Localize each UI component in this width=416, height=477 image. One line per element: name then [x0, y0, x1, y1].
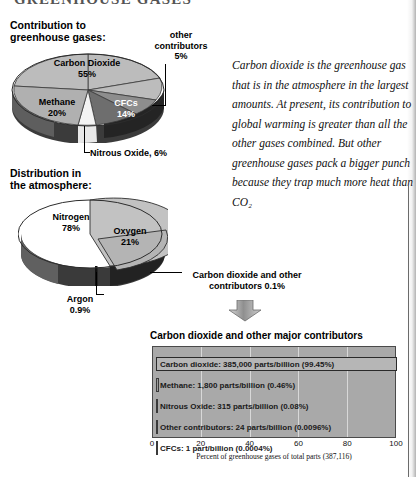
pie1-label-methane: Methane20% [26, 97, 88, 118]
leader-line-carbon-other [150, 272, 182, 273]
x-tick-20: 20 [196, 439, 205, 448]
x-tick-0: 0 [150, 439, 154, 448]
leader-line-argon-foot [96, 294, 104, 295]
bar-methane[interactable]: Methane: 1,800 parts/billion (0.46%) [156, 378, 159, 392]
pie2-callout-carbon-other: Carbon dioxide and othercontributors 0.1… [182, 270, 312, 291]
bar-chart-x-axis: 0 20 40 60 80 100 [152, 438, 396, 450]
leader-line-n2o [84, 126, 85, 152]
bar-nitrous-oxide[interactable]: Nitrous Oxide: 315 parts/billion (0.08%) [156, 399, 158, 413]
leader-line-other-foot [152, 105, 166, 106]
pie2-label-nitrogen: Nitrogen78% [38, 212, 104, 233]
bar-label-nitrous-oxide: Nitrous Oxide: 315 parts/billion (0.08%) [157, 402, 308, 411]
bar-chart-panel: Carbon dioxide and other major contribut… [150, 330, 402, 470]
bar-chart-plot: Carbon dioxide: 385,000 parts/billion (9… [152, 346, 396, 438]
pie2-label-oxygen: Oxygen21% [104, 226, 156, 247]
pie1-label-cfcs: CFCs14% [104, 98, 148, 119]
page-edge-line [408, 186, 409, 477]
bar-chart-caption: Percent of greenhouse gases of total par… [150, 452, 398, 461]
bar-label-other-contributors: Other contributors: 24 parts/billion (0.… [157, 423, 331, 432]
leader-line-argon [96, 272, 97, 294]
down-arrow-icon [228, 300, 262, 322]
page-banner: GREENHOUSE GASES [14, 0, 192, 8]
leader-line-n2o-foot [84, 152, 90, 153]
x-tick-100: 100 [389, 439, 402, 448]
x-tick-60: 60 [294, 439, 303, 448]
pie1-callout-nitrous-oxide: Nitrous Oxide, 6% [90, 148, 167, 159]
pie1-callout-other-contributors: othercontributors5% [148, 30, 214, 62]
x-tick-80: 80 [343, 439, 352, 448]
leader-line-other [165, 64, 166, 106]
bar-carbon-dioxide[interactable]: Carbon dioxide: 385,000 parts/billion (9… [156, 357, 397, 371]
bar-label-methane: Methane: 1,800 parts/billion (0.46%) [157, 381, 295, 390]
bar-other-contributors[interactable]: Other contributors: 24 parts/billion (0.… [156, 420, 158, 434]
pie2-callout-argon: Argon0.9% [56, 294, 104, 315]
bar-label-carbon-dioxide: Carbon dioxide: 385,000 parts/billion (9… [157, 360, 334, 369]
x-tick-40: 40 [245, 439, 254, 448]
pie-chart-contribution [8, 38, 168, 143]
infographic-page: GREENHOUSE GASES Contribution togreenhou… [0, 0, 416, 477]
bar-chart-title: Carbon dioxide and other major contribut… [150, 330, 363, 341]
pie1-label-carbon-dioxide: Carbon Dioxide55% [42, 58, 132, 79]
body-paragraph: Carbon dioxide is the greenhouse gas tha… [232, 56, 416, 212]
